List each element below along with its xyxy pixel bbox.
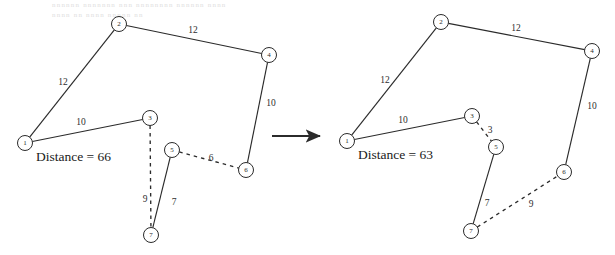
graph-node-label: 6: [562, 168, 566, 176]
graph-edge-3-7: [150, 125, 151, 227]
graph-edge-4-6: [247, 62, 267, 162]
edge-weight-label: 3: [488, 125, 493, 135]
edge-weight-label: 12: [511, 23, 521, 33]
graph-node-label: 2: [117, 20, 121, 28]
graph-node-label: 7: [469, 227, 473, 235]
graph-edge-4-6: [566, 58, 591, 164]
graph-node-label: 4: [590, 47, 594, 55]
edge-weight-label: 10: [398, 115, 408, 125]
graph-node-label: 3: [148, 114, 152, 122]
graph-node-label: 2: [439, 18, 443, 26]
graph-node-label: 6: [244, 166, 248, 174]
graph-edge-5-7: [473, 154, 494, 224]
edge-weight-label: 6: [209, 153, 214, 163]
edge-weight-label: 9: [529, 199, 534, 209]
edge-weight-label: 9: [143, 194, 148, 204]
edge-weight-label: 10: [587, 101, 597, 111]
edge-weight-label: 12: [188, 25, 198, 35]
edge-weight-label: 7: [172, 197, 177, 207]
graph-panel-after: 121210103791234567Distance = 63: [340, 15, 600, 239]
figure-canvas: nnnnnn nnnnnnn nnn nnnnnnnn nnnnnn nnnnn…: [0, 0, 615, 255]
edge-weight-label: 12: [58, 77, 68, 87]
graph-edge-1-2: [352, 28, 437, 135]
scan-artifact-layer: nnnnnn nnnnnnn nnn nnnnnnnn nnnnnn nnnnn…: [52, 1, 227, 19]
graph-edge-1-2: [30, 30, 115, 137]
graph-node-label: 1: [345, 137, 349, 145]
edge-weight-label: 12: [380, 75, 390, 85]
graph-node-label: 4: [267, 51, 271, 59]
graph-edge-7-5: [153, 157, 170, 227]
scan-artifact-text: nnnn nn nnnn nnnnn nn: [52, 11, 144, 19]
graph-node-label: 3: [470, 112, 474, 120]
distance-caption: Distance = 63: [358, 147, 433, 162]
tour-improvement-figure: nnnnnn nnnnnnn nnn nnnnnnnn nnnnnn nnnnn…: [0, 0, 615, 255]
graph-node-label: 1: [23, 139, 27, 147]
graph-edge-1-3: [32, 119, 142, 141]
edge-weight-label: 10: [76, 117, 86, 127]
distance-caption: Distance = 66: [36, 149, 111, 164]
scan-artifact-text: nnnnnn nnnnnnn nnn nnnnnnnn nnnnnn nnnn: [52, 1, 227, 9]
graph-edge-7-6: [477, 176, 557, 227]
graph-panel-before: 121210109761234567Distance = 66: [18, 17, 277, 243]
graph-panels-layer: 121210109761234567Distance = 66121210103…: [18, 15, 600, 243]
graph-node-label: 7: [149, 231, 153, 239]
graph-node-label: 5: [494, 143, 498, 151]
graph-edge-1-3: [354, 117, 464, 139]
graph-node-label: 5: [170, 146, 174, 154]
edge-weight-label: 7: [485, 198, 490, 208]
edge-weight-label: 10: [266, 98, 276, 108]
